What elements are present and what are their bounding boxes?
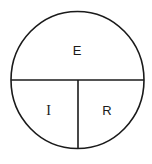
partition-diagram: E I R — [0, 0, 152, 164]
region-label-e: E — [73, 43, 82, 58]
region-label-r: R — [102, 103, 111, 118]
region-label-i: I — [46, 103, 51, 118]
